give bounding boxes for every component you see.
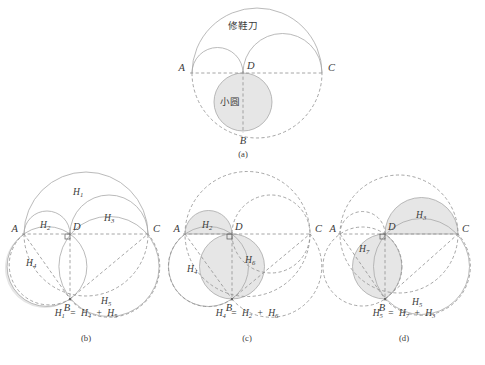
- panel-c-point-B: [231, 298, 233, 300]
- panel-c-label-A: A: [173, 223, 181, 234]
- panel-c-circle-dc: [232, 195, 310, 273]
- panel-a-big-arc-upper: [192, 8, 322, 73]
- panel-b-point-B: [69, 298, 71, 300]
- panel-c-equation: H4 = H2 + H6: [215, 308, 279, 320]
- panel-c: A D C B H2 H4 H6 H4 = H2 + H6 (c): [168, 172, 323, 344]
- panel-c-label-C: C: [315, 223, 323, 234]
- panel-b-caption: (b): [81, 333, 91, 343]
- panel-d: A D C B H3 H5 H7 H5 = H7 + H3 (d): [323, 175, 470, 343]
- panel-b-region-h3: H3: [103, 213, 115, 224]
- panel-b-region-h5-shade: [70, 234, 160, 317]
- panel-b-arc-bc-dashed: [70, 234, 160, 317]
- panel-c-region-h4: H4: [186, 264, 198, 275]
- panel-d-caption: (d): [399, 333, 409, 343]
- panel-d-point-B: [384, 298, 386, 300]
- panel-b-region-h4-shade: [5, 234, 70, 308]
- panel-d-label-C: C: [462, 223, 470, 234]
- panel-a-label-D: D: [246, 60, 255, 71]
- panel-a-arc-dc: [243, 34, 322, 74]
- panel-a-caption: (a): [238, 149, 248, 159]
- panel-b-label-D: D: [72, 221, 81, 232]
- panel-a-label-B: B: [240, 135, 247, 146]
- panel-b-region-h4: H4: [25, 258, 37, 269]
- panel-c-caption: (c): [242, 333, 252, 343]
- panel-b-region-h5: H5: [100, 296, 112, 307]
- panel-d-region-h5: H5: [411, 297, 423, 308]
- panel-b-region-h2: H2: [39, 220, 51, 231]
- panel-a-label-C: C: [328, 62, 336, 73]
- panel-d-label-A: A: [329, 223, 337, 234]
- panel-a-label-A: A: [178, 62, 186, 73]
- panel-a-incircle-label: 小圆: [220, 96, 240, 107]
- panel-b-label-C: C: [153, 223, 161, 234]
- panel-a: A D C B 修鞋刀 小圆 (a): [178, 8, 336, 159]
- panel-b-chord-bc: [70, 234, 148, 299]
- figure-root: A D C B 修鞋刀 小圆 (a): [0, 0, 485, 365]
- panel-b-region-h1: H1: [72, 187, 83, 198]
- panel-a-arc-ad: [192, 48, 243, 73]
- panel-d-label-D: D: [387, 221, 396, 232]
- panel-c-label-D: D: [234, 221, 243, 232]
- panel-b-big-arc-lower: [24, 234, 148, 296]
- panel-b-label-A: A: [11, 223, 19, 234]
- panel-a-arbelos-label: 修鞋刀: [228, 20, 258, 31]
- panel-b: A D C B H1 H2 H3 H4 H5 H1 = H4 + H5 (b): [5, 172, 161, 343]
